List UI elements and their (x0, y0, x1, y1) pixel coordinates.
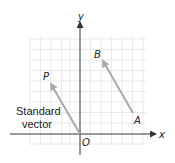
point-label-P: P (43, 71, 50, 82)
origin-label: O (82, 137, 90, 148)
vector-AB (103, 61, 133, 113)
point-label-B: B (94, 49, 101, 60)
x-axis-label: x (158, 129, 165, 140)
caption-line-2: vector (22, 118, 52, 130)
vector-diagram: y x O P B A Standard vector (0, 0, 175, 163)
caption-line-1: Standard (16, 105, 61, 117)
point-label-A: A (133, 115, 141, 126)
y-axis-label: y (77, 11, 85, 22)
